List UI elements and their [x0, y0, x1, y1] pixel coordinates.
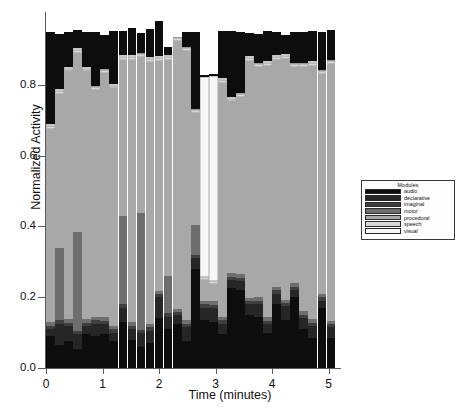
bar-segment-cap — [137, 33, 146, 53]
legend: Modules audiodeclarativeimaginalmotorpro… — [361, 180, 455, 240]
legend-item-procedural: procedural — [365, 214, 451, 221]
bar-segment-imaginal — [236, 278, 245, 282]
bar-segment-audio — [73, 349, 82, 368]
bar-segment-imaginal — [119, 304, 128, 308]
bar-segment-speech — [272, 57, 281, 60]
bar-segment-motor — [55, 248, 64, 321]
bar-segment-cap — [82, 32, 91, 67]
bar-stack — [308, 14, 317, 368]
bar-segment-cap — [100, 35, 109, 69]
bar-segment-motor — [164, 276, 173, 313]
bar-segment-imaginal — [73, 331, 82, 335]
bar-stack — [91, 14, 100, 368]
bar-segment-visual — [128, 55, 137, 57]
bar-segment-speech — [109, 86, 118, 89]
bar-segment-procedural — [182, 51, 191, 320]
bar-segment-declarative — [290, 290, 299, 297]
bar-segment-speech — [327, 61, 336, 64]
bar-segment-speech — [200, 277, 209, 280]
bar-segment-imaginal — [318, 297, 327, 301]
bar-segment-procedural — [91, 90, 100, 317]
bar-stack — [218, 14, 227, 368]
bar-segment-visual — [218, 78, 227, 80]
bar-segment-audio — [82, 334, 91, 368]
bar-segment-imaginal — [128, 326, 137, 330]
legend-swatch-audio — [365, 189, 401, 195]
bar-segment-audio — [137, 347, 146, 368]
bar-segment-cap — [290, 32, 299, 62]
x-axis-tick — [159, 368, 160, 374]
bar-segment-imaginal — [209, 305, 218, 308]
bar-segment-procedural — [119, 60, 128, 216]
bar-segment-cap — [236, 32, 245, 92]
bar-segment-audio — [119, 322, 128, 368]
bar-segment-procedural — [137, 57, 146, 213]
bar-segment-audio — [182, 341, 191, 368]
legend-swatch-imaginal — [365, 202, 401, 208]
bar-segment-imaginal — [218, 320, 227, 324]
bar-segment-declarative — [227, 280, 236, 289]
bar-stack — [137, 14, 146, 368]
bar-segment-declarative — [191, 258, 200, 269]
bar-stack — [318, 14, 327, 368]
bar-segment-cap — [254, 34, 263, 62]
legend-label: audio — [404, 188, 417, 194]
bar-segment-cap — [308, 31, 317, 61]
bar-segment-speech — [46, 126, 55, 129]
bar-segment-visual — [137, 53, 146, 55]
bar-segment-cap — [227, 31, 236, 96]
bar-segment-speech — [299, 64, 308, 67]
bar-segment-visual — [308, 61, 317, 63]
bar-segment-declarative — [200, 308, 209, 320]
bar-segment-visual — [272, 55, 281, 57]
bar-segment-imaginal — [146, 327, 155, 331]
chart-figure: 0.00.20.40.60.8 Normalized Activity Time… — [0, 0, 467, 420]
x-axis-tick — [216, 368, 217, 374]
bar-segment-motor — [146, 324, 155, 328]
y-axis-title: Normalized Activity — [29, 77, 43, 237]
bar-stack — [272, 14, 281, 368]
x-axis-tick — [329, 368, 330, 374]
bar-segment-procedural — [308, 66, 317, 319]
legend-label: speech — [404, 221, 421, 227]
bar-segment-cap — [318, 32, 327, 69]
bar-segment-cap — [218, 31, 227, 79]
bar-segment-audio — [272, 304, 281, 368]
bar-segment-imaginal — [227, 277, 236, 280]
bar-stack — [173, 14, 182, 368]
x-axis-tick — [46, 368, 47, 374]
bar-segment-motor — [290, 283, 299, 287]
bar-segment-visual — [290, 63, 299, 65]
bar-segment-procedural — [100, 73, 109, 317]
bar-stack — [200, 14, 209, 368]
legend-item-visual: visual — [365, 228, 451, 235]
bar-segment-motor — [100, 317, 109, 321]
bar-segment-audio — [173, 324, 182, 368]
bar-segment-cap — [327, 30, 336, 60]
bar-segment-visual — [236, 93, 245, 95]
bar-segment-visual — [119, 55, 128, 57]
bar-segment-declarative — [164, 317, 173, 329]
bar-segment-audio — [46, 336, 55, 368]
bar-segment-speech — [236, 94, 245, 97]
bar-stack — [155, 14, 164, 368]
bar-segment-procedural — [281, 59, 290, 300]
bar-segment-visual — [254, 63, 263, 65]
bar-segment-motor — [46, 322, 55, 326]
x-axis-tick-label: 3 — [206, 377, 226, 391]
bar-segment-procedural — [290, 67, 299, 283]
bar-segment-procedural — [327, 64, 336, 321]
legend-label: imaginal — [404, 201, 424, 207]
bar-segment-cap — [46, 32, 55, 125]
bar-segment-audio — [64, 341, 73, 368]
bar-segment-speech — [137, 54, 146, 57]
bar-segment-imaginal — [91, 320, 100, 324]
bar-stack — [55, 14, 64, 368]
legend-label: visual — [404, 228, 418, 234]
legend-item-declarative: declarative — [365, 195, 451, 202]
y-axis-tick — [38, 368, 45, 369]
y-axis-tick — [38, 85, 45, 86]
bar-segment-cap — [55, 34, 64, 90]
bar-segment-imaginal — [263, 321, 272, 324]
legend-label: procedural — [404, 215, 429, 221]
